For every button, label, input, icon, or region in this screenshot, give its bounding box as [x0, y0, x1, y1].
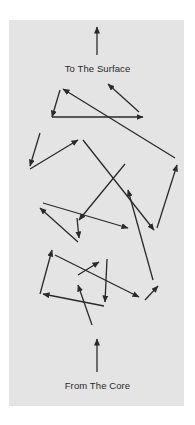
arrow-icon: [145, 286, 158, 300]
arrow-icon: [40, 250, 52, 294]
from-the-core-label: From The Core: [0, 380, 195, 391]
arrow-icon: [128, 190, 153, 280]
arrow-icon: [43, 294, 104, 306]
arrow-icon: [43, 203, 128, 228]
arrow-icon: [77, 218, 79, 238]
arrow-icon: [108, 84, 139, 112]
arrow-icon: [55, 255, 139, 297]
arrow-group: [30, 27, 177, 372]
arrow-icon: [79, 164, 125, 220]
arrow-icon: [30, 133, 40, 166]
arrow-icon: [52, 90, 60, 117]
arrow-icon: [157, 165, 177, 228]
arrow-icon: [40, 208, 78, 242]
to-the-surface-label: To The Surface: [0, 63, 195, 74]
arrow-icon: [83, 140, 154, 230]
arrow-icon: [78, 285, 92, 325]
arrow-icon: [63, 89, 175, 158]
